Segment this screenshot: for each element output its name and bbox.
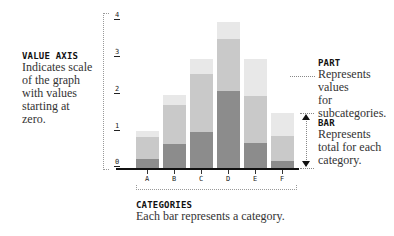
bar-segment	[217, 39, 240, 92]
bar-segment	[217, 91, 240, 168]
bar-segment	[190, 132, 213, 168]
bar-bracket-line	[306, 116, 307, 166]
bar-bracket-bottom	[300, 168, 314, 169]
bar-segment	[136, 159, 159, 168]
category-labels: ABCDEF	[118, 170, 300, 184]
part-line-1: Represents values	[318, 68, 394, 94]
value-axis-bracket	[103, 13, 109, 170]
y-tick-4: 4	[114, 11, 120, 20]
arrow-down-icon	[302, 161, 310, 167]
category-label: F	[277, 175, 287, 183]
value-axis-line-5: zero.	[22, 113, 92, 126]
bar-c	[190, 59, 213, 168]
category-label: C	[196, 175, 206, 183]
bar-segment	[190, 74, 213, 132]
category-label: E	[250, 175, 260, 183]
bar-segment	[271, 113, 294, 136]
category-label: B	[169, 175, 179, 183]
categories-annotation: CATEGORIES Each bar represents a categor…	[136, 200, 285, 223]
x-tick	[201, 170, 202, 174]
bar-segment	[163, 105, 186, 144]
bar-segment	[190, 59, 213, 74]
categories-line-1: Each bar represents a category.	[136, 210, 285, 223]
x-tick	[282, 170, 283, 174]
bar-f	[271, 113, 294, 168]
bar-line-3: category.	[318, 154, 381, 167]
category-label: D	[223, 175, 233, 183]
bar-segment	[244, 96, 267, 143]
part-line-2: for subcategories.	[318, 94, 394, 120]
value-axis-annotation: VALUE AXIS Indicates scale of the graph …	[22, 51, 92, 126]
x-tick	[255, 170, 256, 174]
arrow-up-icon	[302, 114, 310, 120]
x-tick	[228, 170, 229, 174]
category-label: A	[142, 175, 152, 183]
bar-segment	[136, 137, 159, 159]
part-leader-line	[290, 76, 315, 77]
bar-segment	[244, 59, 267, 96]
bar-segment	[244, 143, 267, 168]
bar-e	[244, 59, 267, 168]
bar-d	[217, 22, 240, 168]
bar-segment	[163, 144, 186, 168]
bar-a	[136, 131, 159, 168]
bar-segment	[163, 95, 186, 105]
bar-b	[163, 95, 186, 168]
categories-bracket	[136, 185, 297, 190]
bar-segment	[271, 136, 294, 161]
x-tick	[147, 170, 148, 174]
bar-annotation: BAR Represents total for each category.	[318, 118, 381, 167]
x-tick	[174, 170, 175, 174]
part-annotation: PART Represents values for subcategories…	[318, 58, 394, 120]
bar-segment	[271, 161, 294, 168]
plot-area	[118, 20, 300, 168]
bar-segment	[217, 22, 240, 39]
